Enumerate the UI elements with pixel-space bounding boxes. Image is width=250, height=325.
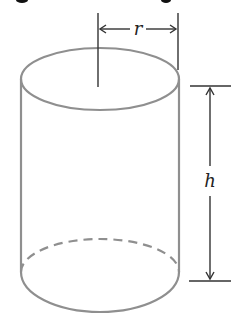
bottom-front-arc — [21, 272, 179, 312]
cropped-heading — [16, 0, 171, 3]
height-label: h — [204, 170, 216, 191]
radius-label: r — [134, 18, 144, 39]
top-ellipse — [21, 48, 179, 110]
cylinder-diagram: r h — [0, 0, 250, 325]
cylinder — [21, 48, 179, 312]
bottom-back-arc-dashed — [21, 239, 179, 272]
